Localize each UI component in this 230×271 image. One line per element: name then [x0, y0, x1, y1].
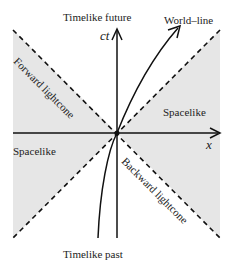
ct-axis-label: ct [100, 28, 109, 44]
spacelike-region-left [13, 30, 117, 238]
origin-event [115, 131, 120, 136]
x-axis-label: x [206, 137, 212, 153]
spacetime-diagram [0, 0, 230, 271]
timelike-future-label: Timelike future [63, 11, 131, 23]
spacelike-right-label: Spacelike [163, 106, 206, 118]
world-line-label: World–line [164, 14, 213, 26]
spacelike-left-label: Spacelike [13, 145, 56, 157]
timelike-past-label: Timelike past [63, 248, 123, 260]
